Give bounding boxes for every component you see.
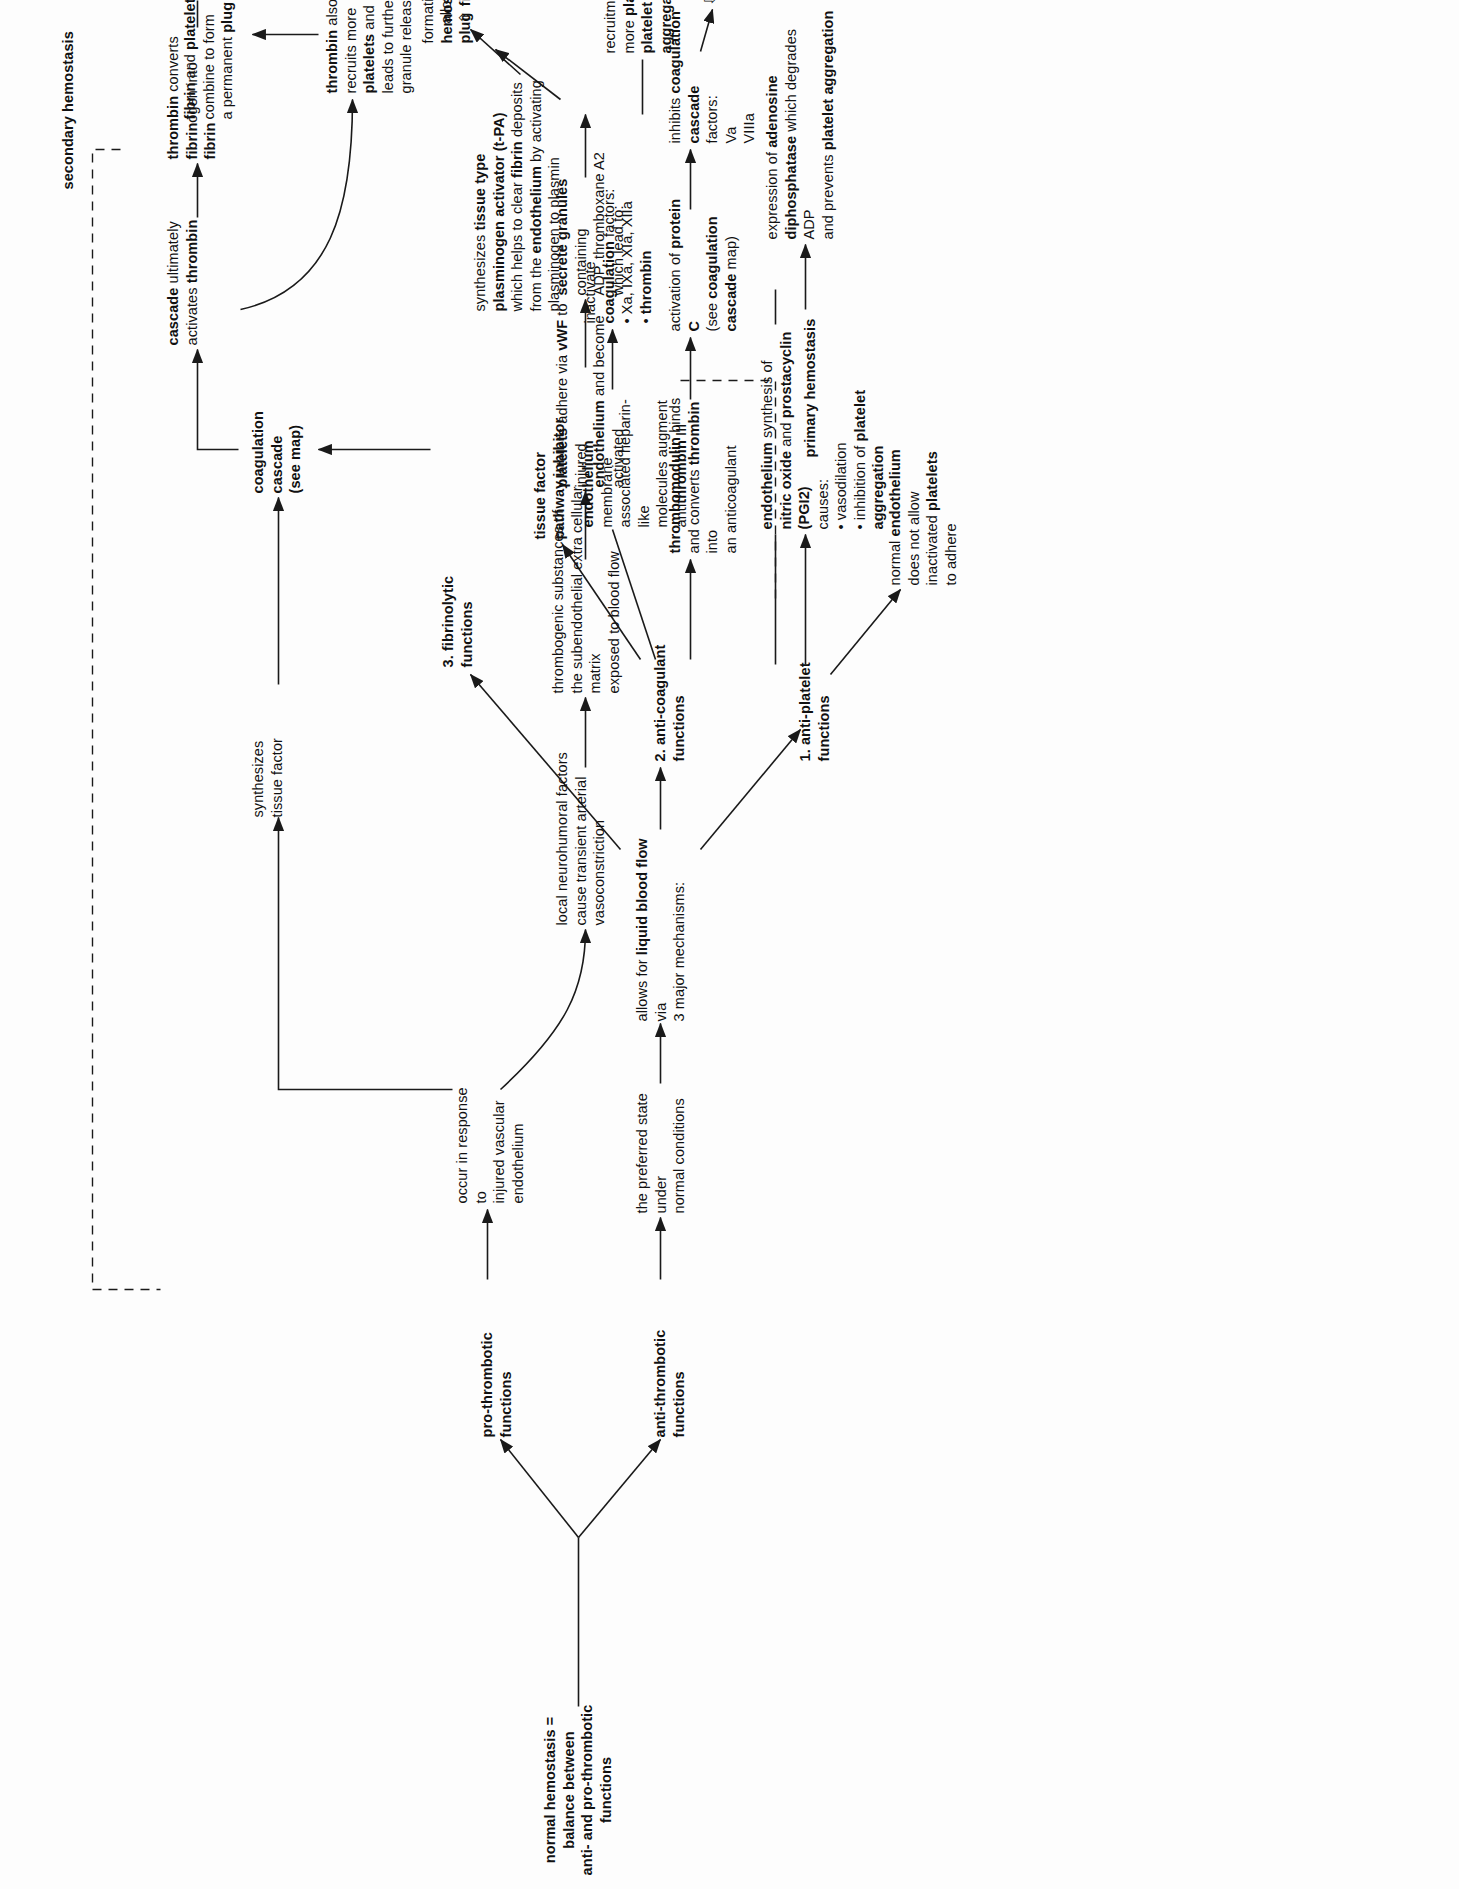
node-permanent-plug: fibrin and platelet aggregates combine t…	[180, 0, 236, 119]
node-pro-thrombotic-functions: pro-thrombotic functions	[477, 1277, 514, 1437]
label-primary-hemostasis: primary hemostasis	[800, 257, 819, 457]
label-secondary-hemostasis: secondary hemostasis	[58, 0, 77, 189]
node-inhibits-coagulation-cascade: inhibits coagulation cascade factors: Va…	[665, 0, 758, 143]
node-liquid-blood-flow: allows for liquid blood flow via 3 major…	[632, 826, 688, 1021]
node-thrombin-recruits-platelets: thrombin also recruits more platelets an…	[322, 0, 415, 93]
node-cascade-activates-thrombin: cascade ultimately activates thrombin	[163, 215, 200, 345]
node-vasoconstriction: local neurohumoral factors cause transie…	[552, 745, 608, 925]
node-mechanism-3-fibrinolytic: 3. fibrinolytic functions	[438, 542, 475, 667]
node-mechanism-2-anti-coagulant: 2. anti-coagulant functions	[650, 586, 687, 761]
node-activation-protein-c: activation of protein C (see coagulation…	[665, 186, 739, 331]
node-hemostatic-plug: formation of a hemostatic plug	[418, 0, 474, 43]
node-root: normal hemostasis = balance between anti…	[540, 1702, 614, 1877]
node-decreased-thrombin-formation: ⇩ thrombin formation	[700, 0, 719, 5]
node-preferred-state: the preferred state under normal conditi…	[632, 1078, 688, 1213]
node-platelets-adhere-vwf: platelets adhere via vWF to injured endo…	[552, 272, 626, 487]
node-anti-thrombotic-functions: anti-thrombotic functions	[650, 1272, 687, 1437]
page-root: normal hemostasis = balance between anti…	[0, 0, 1459, 1889]
node-injured-vascular-endothelium: occur in response to injured vascular en…	[452, 1073, 526, 1203]
node-normal-endothelium: normal endothelium does not allow inacti…	[885, 420, 959, 585]
node-platelet-aggregation: recruitment of more platelets and platel…	[600, 0, 674, 53]
node-nitric-oxide-prostacyclin: endothelium synthesis of nitric oxide an…	[757, 304, 887, 529]
node-mechanism-1-anti-platelet: 1. anti-platelet functions	[795, 596, 832, 761]
node-adenosine-diphosphatase: expression of adenosine diphosphatase wh…	[762, 7, 836, 239]
node-secrete-granules: secrete granules containing ADP, thrombo…	[552, 115, 626, 295]
hemostasis-concept-map: normal hemostasis = balance between anti…	[0, 0, 1459, 1889]
node-tissue-plasminogen-activator: synthesizes tissue type plasminogen acti…	[470, 76, 563, 311]
node-tissue-factor: synthesizes tissue factor	[248, 692, 285, 817]
node-coagulation-cascade: coagulation cascade (see map)	[248, 368, 304, 493]
node-thrombogenic-ecm: thrombogenic substances of the subendoth…	[548, 468, 622, 693]
